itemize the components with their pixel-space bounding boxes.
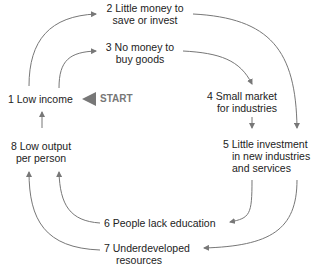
node-5-line3: and services [223,162,310,174]
node-3-no-money: 3 No money to buy goods [100,41,180,65]
node-2-little-money: 2 Little money to save or invest [100,2,190,26]
node-8-low-output: 8 Low output per person [6,140,76,164]
node-7-underdeveloped-resources: 7 Underdeveloped resources [104,242,190,266]
node-8-line1: 8 Low output [6,140,76,152]
node-5-line2: in new industries [223,150,310,162]
node-2-line1: 2 Little money to [100,2,190,14]
node-4-small-market: 4 Small market for industries [195,90,277,114]
node-4-line1: 4 Small market [195,90,277,102]
node-3-line1: 3 No money to [100,41,180,53]
node-3-line2: buy goods [100,53,180,65]
node-2-line2: save or invest [100,14,190,26]
node-6-label: 6 People lack education [104,217,216,229]
node-1-low-income: 1 Low income [8,93,73,105]
node-5-little-investment: 5 Little investment in new industries an… [223,138,310,174]
node-1-label: 1 Low income [8,93,73,105]
start-label: START [100,93,133,104]
node-5-line1: 5 Little investment [223,138,310,150]
start-triangle-icon [82,92,96,106]
node-4-line2: for industries [195,102,277,114]
node-6-people-lack-education: 6 People lack education [104,217,216,229]
node-7-line1: 7 Underdeveloped [104,242,190,254]
node-8-line2: per person [6,152,76,164]
node-7-line2: resources [104,254,190,266]
